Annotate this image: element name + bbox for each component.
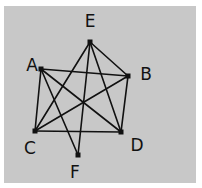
edge-A-B <box>41 69 128 76</box>
node-D <box>119 130 124 135</box>
node-label-C: C <box>24 140 36 157</box>
node-E <box>88 40 93 45</box>
node-F <box>76 153 81 158</box>
node-label-F: F <box>70 164 80 181</box>
edge-C-D <box>35 131 121 132</box>
node-label-D: D <box>130 137 143 154</box>
node-label-A: A <box>26 57 38 74</box>
node-label-B: B <box>140 66 152 83</box>
node-C <box>33 129 38 134</box>
graph-figure: ABCDEF <box>0 0 202 188</box>
edge-B-D <box>121 76 128 132</box>
node-B <box>126 74 131 79</box>
node-label-E: E <box>85 13 96 30</box>
graph-edges <box>0 0 202 188</box>
node-A <box>39 67 44 72</box>
